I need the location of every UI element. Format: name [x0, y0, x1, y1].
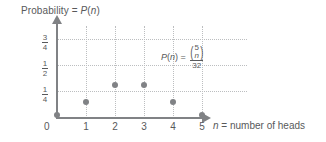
- x-axis-line: [56, 117, 203, 119]
- formula-denominator: 32: [190, 60, 203, 70]
- fraction-one-half: 1 2: [42, 59, 48, 78]
- fraction-one-quarter: 1 4: [42, 85, 48, 104]
- right-paren-icon: ): [200, 46, 203, 59]
- left-paren-icon: (: [190, 46, 193, 59]
- fraction-numerator: 1: [42, 59, 48, 68]
- x-tick-label: 2: [105, 121, 125, 132]
- fraction-three-quarters: 3 4: [42, 33, 48, 52]
- gridline-x-2: [115, 26, 116, 118]
- fraction-numerator: 3: [42, 33, 48, 42]
- plot-area: [57, 26, 247, 118]
- data-point: [141, 82, 147, 88]
- fraction-denominator: 4: [42, 42, 48, 52]
- x-tick-label: 3: [134, 121, 154, 132]
- fraction-denominator: 2: [42, 68, 48, 78]
- chart-title-close-paren: ): [96, 5, 99, 16]
- formula-annotation: P(n) = ( 5 n ) 32: [161, 44, 206, 70]
- chart-figure: Probability = P(n) 3 4: [0, 0, 326, 142]
- x-tick-label: 1: [76, 121, 96, 132]
- binomial-fraction: ( 5 n ) 32: [188, 44, 206, 70]
- binomial-coefficient: ( 5 n ): [188, 44, 206, 60]
- y-tick-label: 1 4: [36, 85, 54, 104]
- y-tick-label: 1 2: [36, 59, 54, 78]
- gridline-x-5: [202, 26, 203, 118]
- binomial-stack: 5 n: [194, 44, 198, 60]
- binomial-bottom: n: [194, 52, 198, 60]
- formula-close-paren-equals: ) =: [175, 52, 186, 62]
- y-axis-ticks: 3 4 1 2 1 4: [32, 0, 54, 142]
- x-axis-label-text: = number of heads: [219, 120, 305, 131]
- data-point: [112, 82, 118, 88]
- x-tick-label: 4: [163, 121, 183, 132]
- gridline-x-3: [144, 26, 145, 118]
- formula-lhs: P(n) =: [161, 52, 186, 62]
- fraction-denominator: 4: [42, 94, 48, 104]
- fraction-numerator: 1: [42, 85, 48, 94]
- y-tick-label: 3 4: [36, 33, 54, 52]
- x-axis-label: n = number of heads: [213, 120, 305, 131]
- y-axis-line: [56, 22, 58, 119]
- x-tick-label: 5: [192, 121, 212, 132]
- data-point: [170, 99, 176, 105]
- data-point: [83, 99, 89, 105]
- y-tick-label-zero: 0: [44, 121, 50, 132]
